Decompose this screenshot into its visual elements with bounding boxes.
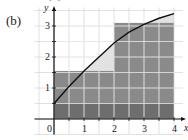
x-axis-arrow-icon bbox=[181, 117, 186, 121]
riemann-sum-chart: 01234123xy bbox=[0, 0, 188, 140]
y-tick-label: 2 bbox=[45, 51, 50, 62]
y-tick-label: 1 bbox=[45, 82, 50, 93]
y-axis-label: y bbox=[43, 2, 49, 13]
x-tick-label: 3 bbox=[142, 123, 147, 134]
x-tick-label: 0 bbox=[47, 123, 52, 134]
x-tick-label: 1 bbox=[82, 123, 87, 134]
y-tick-label: 3 bbox=[45, 20, 50, 31]
x-axis-label: x bbox=[183, 122, 188, 133]
x-tick-label: 2 bbox=[112, 123, 117, 134]
x-tick-label: 4 bbox=[172, 123, 177, 134]
